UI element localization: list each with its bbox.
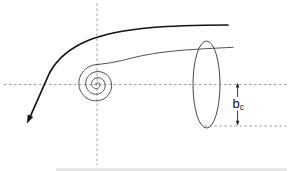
streamline-arrowhead-icon — [27, 115, 33, 124]
vortex-spiral — [79, 65, 112, 101]
bc-label-subscript: c — [240, 102, 245, 112]
streamline-curve — [31, 25, 229, 116]
bc-dimension-arrow-up-icon — [236, 83, 240, 88]
vortex-sheet-curve — [97, 47, 234, 64]
bc-label-base: b — [233, 96, 240, 111]
vortex-diagram: bc — [0, 0, 288, 171]
cropped-caption-artifact — [56, 168, 287, 170]
bc-label: bc — [233, 96, 245, 113]
bc-dimension-arrow-down-icon — [236, 121, 240, 126]
